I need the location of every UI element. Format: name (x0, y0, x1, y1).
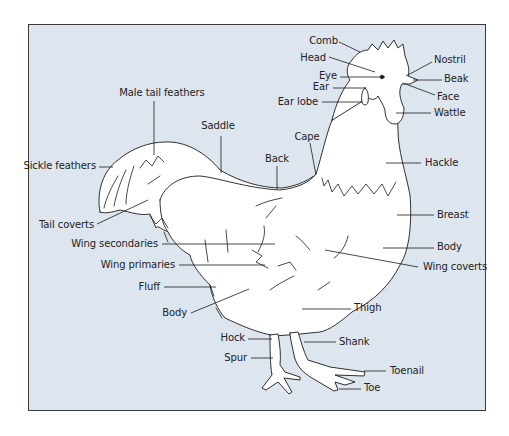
label-shank: Shank (339, 336, 369, 348)
leader-line-face (403, 83, 435, 95)
label-hock: Hock (220, 332, 245, 344)
label-head: Head (300, 52, 326, 64)
label-breast: Breast (437, 209, 469, 221)
label-face: Face (437, 91, 459, 103)
label-back: Back (265, 153, 289, 165)
label-wattle: Wattle (434, 107, 466, 119)
label-saddle: Saddle (201, 120, 235, 132)
label-nostril: Nostril (434, 54, 466, 66)
leader-line-comb (339, 42, 360, 52)
label-wing-primaries: Wing primaries (101, 259, 175, 271)
label-cape: Cape (294, 131, 319, 143)
leader-line-nostril (406, 62, 432, 76)
label-beak: Beak (444, 73, 469, 85)
label-sickle-feathers: Sickle feathers (23, 160, 96, 172)
label-toe: Toe (364, 382, 380, 394)
label-wing-secondaries: Wing secondaries (71, 238, 158, 250)
body-shape (160, 96, 411, 336)
label-male-tail-feathers: Male tail feathers (119, 87, 204, 99)
label-body-right: Body (437, 241, 462, 253)
label-fluff: Fluff (139, 281, 160, 293)
label-ear-lobe: Ear lobe (278, 96, 318, 108)
label-thigh: Thigh (354, 302, 381, 314)
label-wing-coverts: Wing coverts (423, 261, 487, 273)
label-toenail: Toenail (390, 365, 424, 377)
rooster-illustration (0, 0, 509, 436)
label-spur: Spur (224, 352, 247, 364)
label-ear: Ear (313, 81, 329, 93)
label-comb: Comb (309, 35, 338, 47)
label-hackle: Hackle (425, 157, 458, 169)
leader-line-cape (310, 143, 316, 175)
label-body-left: Body (162, 307, 187, 319)
ear-lobe-shape (362, 88, 369, 105)
label-tail-coverts: Tail coverts (39, 219, 94, 231)
